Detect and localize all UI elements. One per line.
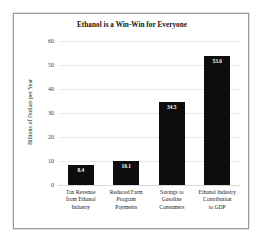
bar[interactable]: 34.5 xyxy=(159,102,185,185)
y-tick-label: 50 xyxy=(48,62,54,68)
x-axis-category-label: Tax Revenuefrom EthanolIndustry xyxy=(58,189,104,211)
bar[interactable]: 10.1 xyxy=(113,161,139,185)
y-tick-label: 10 xyxy=(48,158,54,164)
bar-group[interactable]: 8.4Tax Revenuefrom EthanolIndustry xyxy=(58,41,104,185)
bar-value-label: 53.6 xyxy=(204,59,230,64)
gridline xyxy=(58,185,240,186)
x-axis-category-label: Ethanol IndustryContributionto GDP xyxy=(194,189,240,211)
bars-container: 8.4Tax Revenuefrom EthanolIndustry10.1Re… xyxy=(58,41,240,185)
y-axis-title: Billions of Dollars per Year xyxy=(27,52,33,172)
chart-title: Ethanol is a Win-Win for Everyone xyxy=(14,21,250,29)
bar-value-label: 10.1 xyxy=(113,164,139,169)
bar-group[interactable]: 53.6Ethanol IndustryContributionto GDP xyxy=(195,41,241,185)
y-tick-label: 40 xyxy=(48,86,54,92)
x-axis-category-label: Reduced FarmProgramPayments xyxy=(103,189,149,211)
bar-group[interactable]: 10.1Reduced FarmProgramPayments xyxy=(104,41,150,185)
bar-value-label: 34.5 xyxy=(159,105,185,110)
bar[interactable]: 8.4 xyxy=(68,165,94,185)
bar-value-label: 8.4 xyxy=(68,168,94,173)
y-tick-label: 20 xyxy=(48,134,54,140)
y-tick-label: 60 xyxy=(48,38,54,44)
y-tick-label: 30 xyxy=(48,110,54,116)
y-tick-label: 0 xyxy=(51,182,54,188)
bar[interactable]: 53.6 xyxy=(204,56,230,185)
bar-group[interactable]: 34.5Savings toGasolineConsumers xyxy=(149,41,195,185)
x-axis-category-label: Savings toGasolineConsumers xyxy=(149,189,195,211)
plot-area: 0102030405060 8.4Tax Revenuefrom Ethanol… xyxy=(58,41,240,185)
chart-figure-frame: Ethanol is a Win-Win for Everyone Billio… xyxy=(13,13,249,229)
